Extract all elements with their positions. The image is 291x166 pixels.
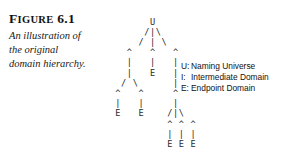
figure-label-smallcaps: IGURE	[18, 14, 54, 25]
caption-line: An illustration of	[9, 29, 101, 43]
legend-item-endpoint: E:Endpoint Domain	[181, 83, 269, 94]
legend-label: Endpoint Domain	[191, 83, 255, 93]
legend-item-intermediate: I:Intermediate Domain	[181, 72, 269, 83]
figure-caption-block: FIGURE 6.1 An illustration of the origin…	[9, 12, 101, 71]
figure-label-initial: F	[9, 11, 18, 26]
figure-caption-text: An illustration of the original domain h…	[9, 29, 101, 71]
legend-key: I:	[181, 72, 191, 83]
legend-item-universe: U:Naming Universe	[181, 61, 269, 72]
legend-label: Intermediate Domain	[191, 72, 269, 82]
legend: U:Naming Universe I:Intermediate Domain …	[181, 61, 269, 95]
figure-label: FIGURE 6.1	[9, 12, 101, 26]
caption-line: domain hierarchy.	[9, 57, 101, 71]
legend-label: Naming Universe	[191, 61, 255, 71]
legend-key: E:	[181, 83, 191, 94]
caption-line: the original	[9, 43, 101, 57]
figure-number: 6.1	[57, 11, 75, 26]
legend-key: U:	[181, 61, 191, 72]
